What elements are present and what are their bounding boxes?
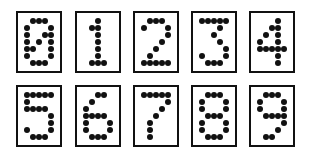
matrix-dot: [95, 53, 101, 59]
matrix-dot: [223, 53, 229, 59]
matrix-dot: [199, 99, 205, 105]
matrix-dot: [275, 25, 281, 31]
matrix-dot: [257, 39, 263, 45]
matrix-dot: [263, 32, 269, 38]
matrix-dot: [36, 39, 42, 45]
matrix-dot: [141, 25, 147, 31]
matrix-dot: [275, 18, 281, 24]
matrix-dot: [107, 127, 113, 133]
matrix-dot: [147, 127, 153, 133]
matrix-dot: [24, 53, 30, 59]
matrix-dot: [275, 127, 281, 133]
matrix-dot: [95, 32, 101, 38]
matrix-dot: [165, 32, 171, 38]
matrix-dot: [275, 39, 281, 45]
matrix-dot: [95, 18, 101, 24]
matrix-dot: [217, 113, 223, 119]
matrix-dot: [89, 99, 95, 105]
matrix-dot: [95, 46, 101, 52]
digit-card-9: 9: [249, 85, 295, 147]
digit-card-3: 3: [191, 11, 237, 73]
matrix-dot: [257, 99, 263, 105]
matrix-dot: [223, 99, 229, 105]
matrix-dot: [217, 92, 223, 98]
matrix-dot: [159, 18, 165, 24]
matrix-dot: [83, 106, 89, 112]
matrix-dot: [101, 92, 107, 98]
matrix-dot: [223, 18, 229, 24]
matrix-dot: [95, 39, 101, 45]
matrix-dot: [223, 106, 229, 112]
matrix-dot: [101, 60, 107, 66]
digit-card-5: 5: [16, 85, 62, 147]
matrix-dot: [95, 25, 101, 31]
digit-grid: 0123456789: [0, 0, 314, 157]
matrix-dot: [48, 46, 54, 52]
matrix-dot: [199, 127, 205, 133]
matrix-dot: [165, 25, 171, 31]
matrix-dot: [107, 120, 113, 126]
matrix-dot: [199, 120, 205, 126]
matrix-dot: [217, 60, 223, 66]
digit-card-8: 8: [191, 85, 237, 147]
matrix-dot: [217, 134, 223, 140]
matrix-dot: [147, 53, 153, 59]
matrix-dot: [101, 134, 107, 140]
matrix-dot: [48, 120, 54, 126]
matrix-dot: [24, 127, 30, 133]
matrix-dot: [257, 106, 263, 112]
matrix-dot: [223, 46, 229, 52]
matrix-dot: [24, 25, 30, 31]
matrix-dot: [275, 92, 281, 98]
matrix-dot: [147, 120, 153, 126]
matrix-dot: [48, 127, 54, 133]
matrix-dot: [281, 113, 287, 119]
matrix-dot: [30, 46, 36, 52]
matrix-dot: [48, 32, 54, 38]
matrix-dot: [281, 106, 287, 112]
digit-card-6: 6: [75, 85, 121, 147]
matrix-dot: [159, 39, 165, 45]
matrix-dot: [281, 120, 287, 126]
matrix-dot: [199, 53, 205, 59]
matrix-dot: [281, 46, 287, 52]
matrix-dot: [42, 106, 48, 112]
matrix-dot: [223, 127, 229, 133]
matrix-dot: [48, 92, 54, 98]
matrix-dot: [165, 99, 171, 105]
matrix-dot: [217, 39, 223, 45]
digit-card-1: 1: [75, 11, 121, 73]
digit-card-2: 2: [133, 11, 179, 73]
digit-card-4: 4: [249, 11, 295, 73]
matrix-dot: [269, 134, 275, 140]
matrix-dot: [211, 32, 217, 38]
matrix-dot: [217, 25, 223, 31]
matrix-dot: [48, 113, 54, 119]
matrix-dot: [48, 39, 54, 45]
matrix-dot: [275, 53, 281, 59]
matrix-dot: [24, 39, 30, 45]
matrix-dot: [147, 134, 153, 140]
matrix-dot: [199, 106, 205, 112]
matrix-dot: [281, 99, 287, 105]
matrix-dot: [159, 106, 165, 112]
matrix-dot: [48, 25, 54, 31]
matrix-dot: [165, 60, 171, 66]
matrix-dot: [101, 113, 107, 119]
matrix-dot: [153, 46, 159, 52]
digit-card-7: 7: [133, 85, 179, 147]
digit-card-0: 0: [16, 11, 62, 73]
matrix-dot: [42, 60, 48, 66]
matrix-dot: [83, 127, 89, 133]
matrix-dot: [83, 120, 89, 126]
matrix-dot: [223, 120, 229, 126]
matrix-dot: [42, 134, 48, 140]
matrix-dot: [275, 60, 281, 66]
matrix-dot: [165, 92, 171, 98]
matrix-dot: [42, 18, 48, 24]
matrix-dot: [48, 53, 54, 59]
matrix-dot: [24, 99, 30, 105]
matrix-dot: [275, 32, 281, 38]
matrix-dot: [24, 32, 30, 38]
matrix-dot: [153, 113, 159, 119]
